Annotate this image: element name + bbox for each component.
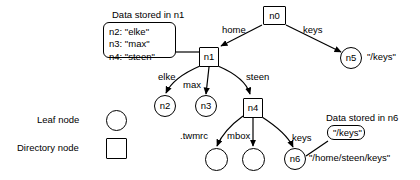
n6-path-annotation: "/home/steen/keys"	[309, 153, 390, 163]
node-n5[interactable]: n5	[340, 47, 362, 69]
node-n1[interactable]: n1	[199, 47, 219, 67]
node-n6[interactable]: n6	[284, 148, 306, 170]
n6-callout-title: Data stored in n6	[326, 113, 398, 123]
node-leaf-mbox[interactable]	[242, 148, 265, 171]
node-n3[interactable]: n3	[195, 95, 217, 117]
n1-callout-title: Data stored in n1	[112, 10, 184, 20]
legend-dir-icon	[106, 138, 127, 159]
legend-dir-label: Directory node	[17, 143, 79, 153]
n5-path-annotation: "/keys"	[367, 52, 396, 62]
n1-data-callout: n2: "elke" n3: "max" n4: "steen"	[103, 22, 176, 58]
edge-n4-n6	[262, 117, 293, 147]
node-leaf-twmrc[interactable]	[205, 148, 228, 171]
edge-label-elke: elke	[158, 72, 175, 82]
node-n2[interactable]: n2	[154, 95, 176, 117]
n6-data-callout: "/keys"	[327, 125, 365, 140]
node-n0[interactable]: n0	[263, 6, 286, 25]
legend-leaf-label: Leaf node	[37, 115, 79, 125]
legend-leaf-icon	[106, 110, 127, 131]
naming-graph-diagram: Data stored in n1 n2: "elke" n3: "max" n…	[0, 0, 420, 180]
edge-label-home: home	[222, 25, 246, 35]
edge-label-max: max	[183, 80, 201, 90]
edge-label-steen: steen	[246, 72, 269, 82]
edge-label-keys-bottom: keys	[292, 133, 312, 143]
edge-label-twmrc: .twmrc	[180, 131, 208, 141]
edge-n1-n3	[206, 67, 209, 94]
edge-label-keys-top: keys	[303, 25, 323, 35]
edge-label-mbox: mbox	[227, 131, 250, 141]
node-n4[interactable]: n4	[243, 98, 263, 118]
